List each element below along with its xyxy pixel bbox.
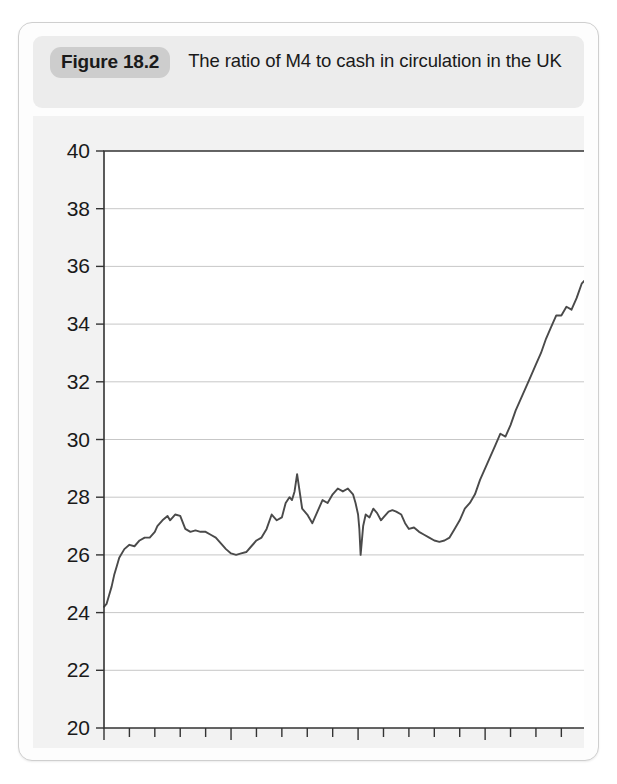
y-tick-label-28: 28 bbox=[67, 485, 90, 508]
y-tick-label-20: 20 bbox=[67, 716, 90, 739]
figure-card: Figure 18.2 The ratio of M4 to cash in c… bbox=[18, 22, 599, 761]
y-axis-tick-labels: 2022242628303234363840 bbox=[67, 139, 91, 739]
x-tick-label-2000: 2000 bbox=[335, 744, 382, 748]
x-axis-tick-labels: 1990199520002005 bbox=[81, 744, 509, 748]
line-chart: 2022242628303234363840 1990199520002005 bbox=[33, 116, 584, 748]
x-tick-label-2005: 2005 bbox=[462, 744, 509, 748]
chart-plot-area: 2022242628303234363840 1990199520002005 bbox=[33, 116, 584, 748]
y-tick-label-36: 36 bbox=[67, 254, 90, 277]
figure-number-badge: Figure 18.2 bbox=[50, 47, 170, 78]
figure-header: Figure 18.2 The ratio of M4 to cash in c… bbox=[33, 36, 584, 108]
y-tick-label-24: 24 bbox=[67, 601, 91, 624]
figure-title: The ratio of M4 to cash in circulation i… bbox=[188, 48, 562, 73]
y-tick-label-30: 30 bbox=[67, 428, 90, 451]
y-tick-label-22: 22 bbox=[67, 658, 90, 681]
y-tick-label-38: 38 bbox=[67, 197, 90, 220]
y-tick-label-40: 40 bbox=[67, 139, 90, 162]
y-tick-label-34: 34 bbox=[67, 312, 91, 335]
y-tick-label-32: 32 bbox=[67, 370, 90, 393]
y-tick-label-26: 26 bbox=[67, 543, 90, 566]
x-tick-label-1990: 1990 bbox=[81, 744, 128, 748]
x-tick-label-1995: 1995 bbox=[208, 744, 255, 748]
